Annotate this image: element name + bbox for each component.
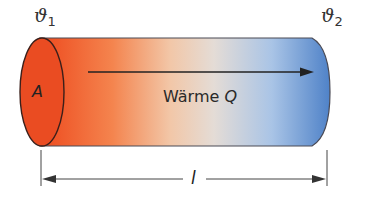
dimension-arrowhead-right [312, 175, 326, 183]
theta-symbol: ϑ [321, 4, 335, 26]
theta-symbol: ϑ [34, 4, 48, 26]
subscript: 2 [335, 14, 343, 29]
dimension-arrowhead-left [42, 175, 56, 183]
area-label: A [32, 82, 43, 101]
heat-symbol: Q [224, 87, 237, 106]
temperature-label-2: ϑ2 [321, 4, 343, 29]
subscript: 1 [48, 14, 56, 29]
heat-label: Wärme Q [163, 87, 237, 106]
temperature-label-1: ϑ1 [34, 4, 56, 29]
heat-text: Wärme [163, 87, 224, 106]
length-label: l [191, 168, 196, 188]
